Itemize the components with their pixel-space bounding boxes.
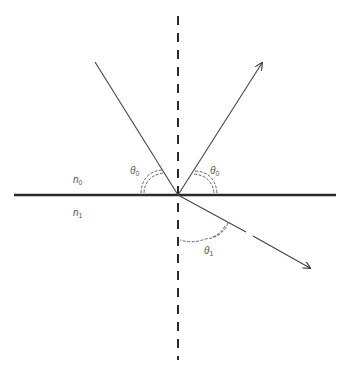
refraction-diagram (0, 0, 345, 372)
reflected-ray (178, 63, 262, 195)
label-n1: n1 (73, 208, 82, 219)
refracted-ray (178, 195, 310, 268)
label-theta0-reflected: θ0 (210, 166, 219, 177)
refracted-angle-arc (180, 223, 228, 242)
label-theta1-refracted: θ1 (204, 246, 213, 257)
label-n0: n0 (73, 175, 82, 186)
incident-angle-arc (141, 170, 163, 193)
label-theta0-incident: θ0 (130, 166, 139, 177)
